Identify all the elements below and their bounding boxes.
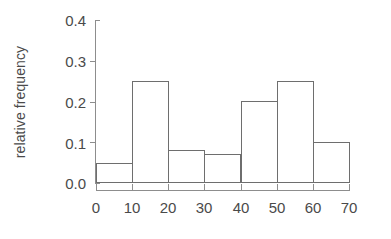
x-tick-mark-70 <box>349 184 350 190</box>
histogram-bar-20-30 <box>168 150 205 183</box>
histogram-bar-60-70 <box>313 142 350 183</box>
y-axis-title-container: relative frequency <box>0 0 40 200</box>
x-tick-mark-40 <box>241 184 242 190</box>
y-tick-label-0.4: 0.4 <box>44 13 86 28</box>
histogram-bar-40-50 <box>241 101 278 183</box>
x-tick-label-40: 40 <box>221 199 261 216</box>
x-tick-mark-20 <box>168 184 169 190</box>
x-axis-line <box>96 190 350 191</box>
histogram-bar-0-10 <box>96 163 133 183</box>
histogram-bar-50-60 <box>277 81 314 183</box>
x-tick-label-50: 50 <box>257 199 297 216</box>
y-tick-label-0.1: 0.1 <box>44 136 86 151</box>
y-tick-label-0.3: 0.3 <box>44 54 86 69</box>
x-tick-mark-30 <box>204 184 205 190</box>
x-tick-label-30: 30 <box>184 199 224 216</box>
x-tick-mark-0 <box>96 184 97 190</box>
plot-area <box>96 20 349 183</box>
x-tick-label-60: 60 <box>293 199 333 216</box>
x-tick-mark-50 <box>277 184 278 190</box>
x-tick-label-0: 0 <box>76 199 116 216</box>
x-tick-mark-60 <box>313 184 314 190</box>
x-tick-label-70: 70 <box>329 199 369 216</box>
y-axis-title: relative frequency <box>12 16 28 188</box>
y-tick-label-0.0: 0.0 <box>44 176 86 191</box>
y-tick-label-0.2: 0.2 <box>44 95 86 110</box>
histogram-bar-10-20 <box>132 81 169 183</box>
x-tick-label-20: 20 <box>148 199 188 216</box>
histogram-bar-30-40 <box>204 154 241 183</box>
x-tick-mark-10 <box>132 184 133 190</box>
x-tick-label-10: 10 <box>112 199 152 216</box>
histogram-figure: relative frequency 0.4 0.3 0.2 0.1 0.0 0… <box>0 0 391 239</box>
